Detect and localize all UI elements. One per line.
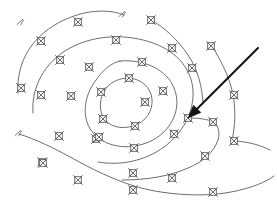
arrow-shaft (197, 48, 258, 109)
station-marker (170, 130, 179, 139)
contour-end-tick (15, 131, 22, 137)
contour-figure (0, 0, 277, 215)
station-marker (37, 91, 46, 100)
station-marker (188, 64, 197, 73)
station-marker (125, 74, 134, 83)
station-marker (138, 58, 147, 67)
marker-layer (17, 16, 239, 197)
station-marker (141, 98, 150, 107)
station-marker (85, 63, 94, 72)
contour-end-tick (17, 20, 24, 26)
station-marker (95, 133, 104, 142)
station-marker (131, 122, 140, 131)
contour-line (212, 46, 270, 150)
annotation-arrow (188, 48, 258, 118)
station-marker (55, 132, 64, 141)
station-marker (56, 56, 65, 65)
station-marker (130, 144, 139, 153)
contour-line (151, 20, 203, 103)
station-marker (39, 159, 48, 168)
station-marker (147, 16, 156, 25)
station-marker (74, 18, 83, 27)
station-marker (230, 137, 239, 146)
figure-canvas (0, 0, 277, 215)
station-marker (97, 88, 106, 97)
station-marker (209, 188, 218, 197)
contour-line (18, 11, 124, 93)
station-marker (159, 87, 168, 96)
station-marker (209, 118, 218, 127)
station-marker (230, 91, 239, 100)
station-marker (99, 115, 108, 124)
station-marker (17, 84, 26, 93)
station-marker (207, 42, 216, 51)
station-marker (67, 92, 76, 101)
station-marker (168, 174, 177, 183)
station-marker (168, 44, 177, 53)
station-marker (129, 169, 138, 178)
annotation-layer (15, 12, 258, 137)
station-marker (37, 37, 46, 46)
station-marker (112, 36, 121, 45)
contour-line (33, 37, 193, 164)
station-marker (74, 176, 83, 185)
station-marker (201, 152, 210, 161)
station-marker (129, 186, 138, 195)
